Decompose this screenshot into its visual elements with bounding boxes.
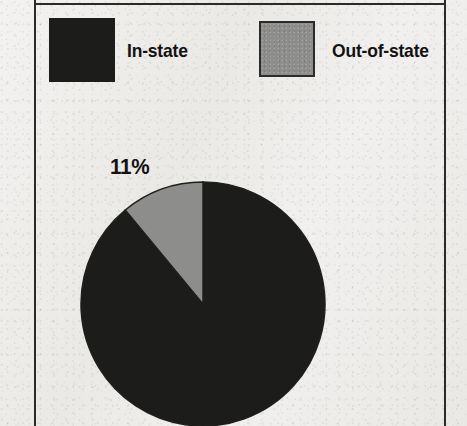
pie-slice-label-out-of-state: 11% bbox=[110, 154, 149, 180]
pie-slices bbox=[81, 182, 325, 426]
legend-label-in-state: In-state bbox=[127, 40, 188, 62]
legend-swatch-out-of-state bbox=[259, 21, 315, 77]
pie-chart bbox=[80, 181, 326, 426]
frame-right-rule bbox=[444, 0, 446, 426]
pie-chart-svg bbox=[80, 181, 326, 426]
chart-legend: In-state Out-of-state bbox=[34, 5, 444, 101]
legend-swatch-in-state bbox=[49, 18, 115, 82]
legend-label-out-of-state: Out-of-state bbox=[332, 40, 429, 62]
chart-page: In-state Out-of-state 11% bbox=[0, 0, 467, 426]
